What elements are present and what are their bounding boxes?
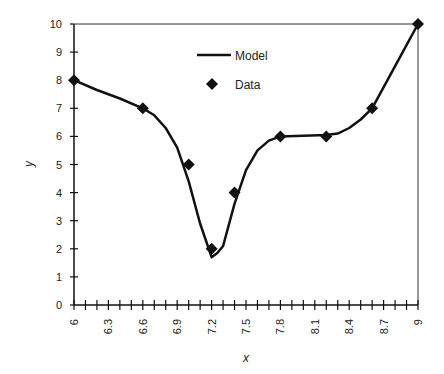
y-tick-label: 7 [56,102,62,114]
x-tick-label: 6.6 [137,319,149,334]
data-point-diamond [320,130,332,142]
x-tick-label: 6.9 [171,319,183,334]
legend-data-diamond-icon [206,78,218,90]
y-tick-label: 3 [56,215,62,227]
legend-model-label: Model [235,49,268,63]
y-axis-title: y [22,160,36,168]
y-tick-label: 8 [56,74,62,86]
legend-data-label: Data [235,78,261,92]
y-tick-label: 5 [56,159,62,171]
data-point-diamond [412,18,424,30]
y-tick-label: 10 [50,18,62,30]
data-point-diamond [68,74,80,86]
x-tick-label: 8.7 [378,319,390,334]
x-tick-label: 7.5 [240,319,252,334]
y-tick-label: 4 [56,187,62,199]
data-point-diamond [137,102,149,114]
data-point-diamond [274,130,286,142]
x-tick-label: 7.8 [274,319,286,334]
chart: 01234567891066.36.66.97.27.57.88.18.48.7… [0,0,444,374]
x-tick-label: 7.2 [206,319,218,334]
axis-ticks [70,24,418,310]
y-tick-label: 2 [56,243,62,255]
y-tick-label: 9 [56,46,62,58]
x-tick-label: 6.3 [102,319,114,334]
y-tick-label: 0 [56,299,62,311]
x-tick-label: 8.4 [343,319,355,334]
y-tick-label: 1 [56,271,62,283]
tick-labels: 01234567891066.36.66.97.27.57.88.18.48.7… [50,18,424,334]
axes [74,24,418,305]
legend: Model Data [197,49,268,92]
x-axis-title: x [242,351,250,365]
y-tick-label: 6 [56,130,62,142]
x-tick-label: 6 [68,319,80,325]
x-tick-label: 8.1 [309,319,321,334]
x-tick-label: 9 [412,319,424,325]
